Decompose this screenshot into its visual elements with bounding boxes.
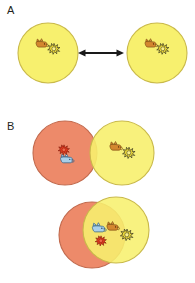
panel-a-group: [18, 23, 187, 83]
double-headed-arrow: [78, 50, 124, 57]
yellow-circle-right: [127, 23, 187, 83]
arrow-head-left: [78, 50, 86, 57]
circle-shape: [18, 23, 78, 83]
panel-b-top-pair: [33, 121, 154, 185]
figure-canvas: [0, 0, 195, 283]
circle-shape: [90, 121, 154, 185]
panel-b-bottom-pair: [59, 197, 149, 268]
scientific-figure: A B: [0, 0, 195, 283]
circle-shape: [127, 23, 187, 83]
arrow-head-right: [117, 50, 125, 57]
yellow-circle-top: [90, 121, 154, 185]
yellow-circle-left: [18, 23, 78, 83]
